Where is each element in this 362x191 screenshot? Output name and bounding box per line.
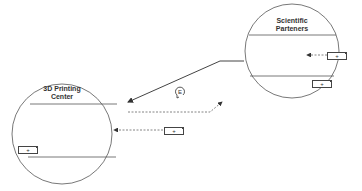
plus-box-right-node[interactable]: + <box>312 80 332 88</box>
title-line: Center <box>32 93 92 101</box>
node-title-printing-center: 3D Printing Center <box>32 85 92 101</box>
solid-flow-arrow <box>128 61 244 102</box>
plus-box-left-input[interactable]: + <box>164 127 184 135</box>
svg-text:E: E <box>178 89 182 95</box>
plus-box-left-node[interactable]: + <box>18 146 38 154</box>
node-title-scientific-partners: Scientific Parteners <box>262 17 322 33</box>
dashed-flow-arrow <box>128 102 222 112</box>
title-line: 3D Printing <box>32 85 92 93</box>
title-line: Scientific <box>262 17 322 25</box>
plus-box-right-input[interactable]: + <box>327 52 347 60</box>
title-line: Parteners <box>262 25 322 33</box>
